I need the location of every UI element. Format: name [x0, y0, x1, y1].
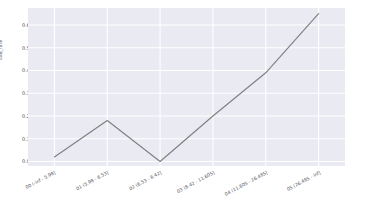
- y-tick-label: 0.1: [4, 136, 30, 142]
- x-tick-label: 05 (26.485 - inf]: [266, 170, 321, 200]
- x-tick-label: 01 (5.98 - 6.53]: [54, 170, 109, 200]
- data-line-series: [28, 8, 345, 166]
- y-tick-label: 0.2: [4, 113, 30, 119]
- x-tick-label: 03 (8.42 - 11.605]: [160, 170, 215, 200]
- plot-area: [28, 8, 345, 166]
- x-tick-label: 00 (-inf - 5.98]: [1, 170, 56, 200]
- y-axis-label: bad_rate: [0, 0, 8, 60]
- y-tick-label: 0.0: [4, 158, 30, 164]
- x-tick-label: 04 (11.605 - 26.485]: [213, 170, 268, 200]
- line-path: [54, 14, 318, 162]
- y-tick-label: 0.4: [4, 67, 30, 73]
- chart-figure: 0.00.10.20.30.40.50.6 bad_rate 00 (-inf …: [0, 0, 377, 200]
- y-tick-label: 0.3: [4, 90, 30, 96]
- x-tick-label: 02 (6.53 - 8.42]: [107, 170, 162, 200]
